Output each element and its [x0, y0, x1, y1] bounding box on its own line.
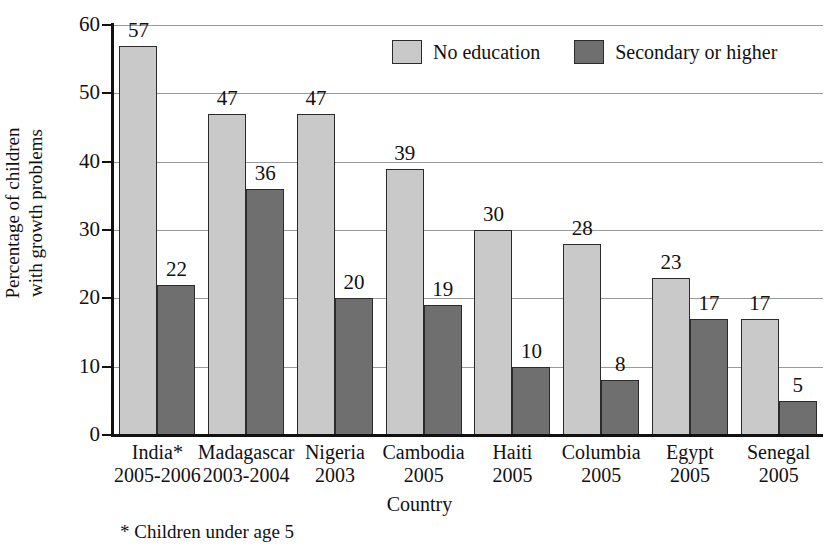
- bar[interactable]: [386, 169, 424, 436]
- bar[interactable]: [335, 298, 373, 435]
- bar[interactable]: [246, 189, 284, 435]
- y-tick-label: 30: [40, 219, 100, 240]
- bar[interactable]: [119, 46, 157, 436]
- bar-value-label: 36: [230, 163, 300, 184]
- bar-value-label: 22: [141, 259, 211, 280]
- bar[interactable]: [474, 230, 512, 435]
- y-tick-label: 10: [40, 356, 100, 377]
- bar[interactable]: [779, 401, 817, 435]
- legend-swatch-no-education: [392, 40, 422, 64]
- legend-label-secondary-or-higher: Secondary or higher: [615, 42, 777, 62]
- bar[interactable]: [690, 319, 728, 435]
- y-axis-title: Percentage of children with growth probl…: [1, 23, 47, 403]
- y-tick-label: 20: [40, 287, 100, 308]
- y-tick-label: 40: [40, 151, 100, 172]
- y-tick-mark: [102, 297, 111, 299]
- bar-value-label: 8: [585, 354, 655, 375]
- legend-swatch-secondary-or-higher: [574, 40, 604, 64]
- y-tick-mark: [102, 161, 111, 163]
- bar-value-label: 17: [725, 293, 795, 314]
- bar[interactable]: [424, 305, 462, 435]
- bar[interactable]: [563, 244, 601, 435]
- y-tick-label: 60: [40, 14, 100, 35]
- x-axis-category-label: Senegal2005: [720, 441, 837, 487]
- bar-value-label: 28: [547, 218, 617, 239]
- category-name: Senegal: [720, 441, 837, 464]
- bar-value-label: 39: [370, 143, 440, 164]
- gridline: [113, 25, 823, 26]
- bar[interactable]: [601, 380, 639, 435]
- bar-value-label: 47: [281, 88, 351, 109]
- footnote: * Children under age 5: [120, 522, 294, 541]
- bar-value-label: 20: [319, 272, 389, 293]
- x-axis-title: Country: [0, 494, 839, 514]
- bar[interactable]: [157, 285, 195, 435]
- bar[interactable]: [512, 367, 550, 435]
- legend-item-no-education[interactable]: No education: [392, 40, 540, 64]
- bar-value-label: 5: [763, 375, 833, 396]
- bar-value-label: 19: [408, 279, 478, 300]
- bar-value-label: 47: [192, 88, 262, 109]
- plot-area: 572247364720391930102882317175: [113, 25, 823, 435]
- y-tick-mark: [102, 229, 111, 231]
- category-year: 2005: [720, 464, 837, 487]
- y-tick-mark: [102, 434, 111, 436]
- legend-item-secondary-or-higher[interactable]: Secondary or higher: [574, 40, 777, 64]
- y-tick-mark: [102, 92, 111, 94]
- bar-value-label: 10: [496, 341, 566, 362]
- y-tick-mark: [102, 366, 111, 368]
- y-tick-label: 0: [40, 424, 100, 445]
- bar-value-label: 57: [103, 20, 173, 41]
- y-tick-label: 50: [40, 82, 100, 103]
- legend: No education Secondary or higher: [392, 40, 777, 64]
- legend-label-no-education: No education: [433, 42, 540, 62]
- y-axis-line: [111, 23, 114, 437]
- bar-value-label: 30: [458, 204, 528, 225]
- y-tick-mark: [102, 24, 111, 26]
- x-axis-line: [111, 434, 823, 437]
- bar-value-label: 23: [636, 252, 706, 273]
- bar-chart: 572247364720391930102882317175 010203040…: [0, 0, 839, 555]
